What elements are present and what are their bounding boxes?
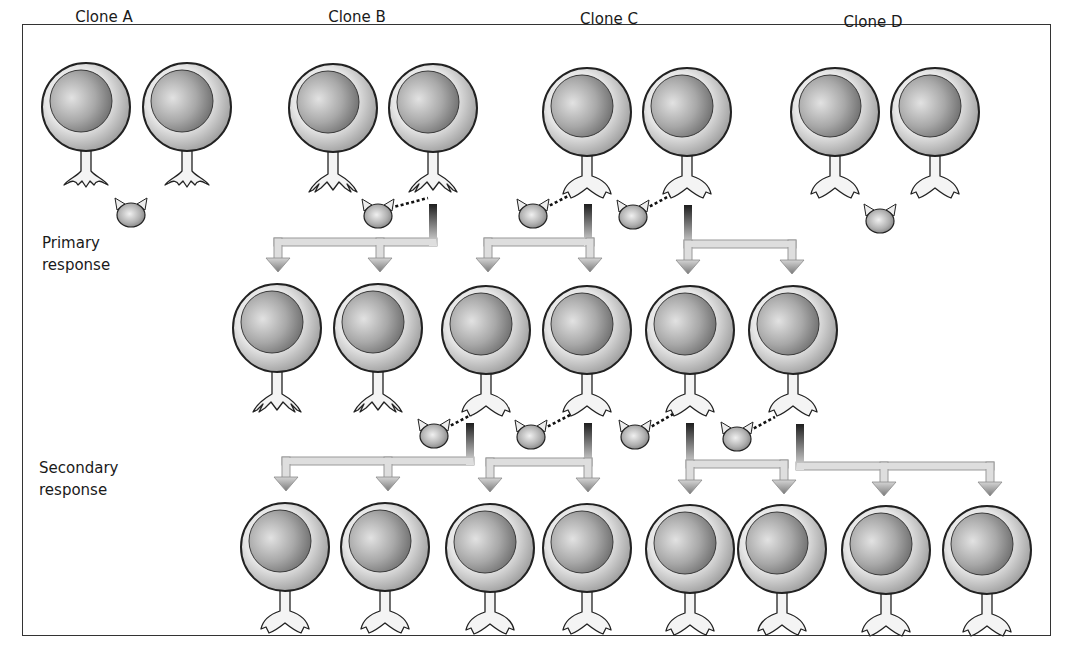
nucleus-icon: [651, 75, 713, 137]
lymphocyte-naive-clone-d: [791, 68, 879, 198]
receptor-icon: [253, 370, 301, 412]
nucleus-icon: [951, 513, 1013, 575]
antigen-icon: [617, 200, 649, 229]
lymphocyte-primary-clone-c: [442, 286, 530, 416]
lymphocyte-primary-clone-c: [543, 286, 631, 416]
antigen-icon: [517, 199, 549, 228]
diagram-artwork: [0, 0, 1068, 661]
receptor-icon: [963, 592, 1011, 636]
nucleus-icon: [654, 512, 716, 574]
receptor-icon: [911, 154, 959, 198]
lymphocyte-secondary-clone-c: [842, 506, 930, 636]
antigen-icon: [515, 420, 547, 449]
antigen-icon: [721, 422, 753, 451]
receptor-icon: [663, 154, 711, 198]
lymphocyte-secondary-clone-c: [341, 503, 429, 633]
lymphocyte-naive-clone-b: [389, 64, 477, 192]
receptor-icon: [563, 154, 611, 198]
lymphocyte-naive-clone-b: [289, 64, 377, 192]
receptor-icon: [361, 589, 409, 633]
nucleus-icon: [551, 511, 613, 573]
nucleus-icon: [241, 291, 303, 353]
receptor-icon: [462, 372, 510, 416]
binding-link-icon: [390, 198, 428, 208]
antigen-icon: [864, 204, 896, 233]
lymphocyte-secondary-clone-c: [543, 504, 631, 634]
lymphocyte-primary-clone-b: [233, 284, 321, 412]
receptor-icon: [666, 591, 714, 635]
receptor-icon: [466, 590, 514, 634]
lymphocyte-naive-clone-c: [643, 68, 731, 198]
nucleus-icon: [654, 293, 716, 355]
proliferation-arrow-icon: [266, 204, 437, 272]
receptor-icon: [666, 372, 714, 416]
lymphocyte-naive-clone-d: [891, 68, 979, 198]
lymphocyte-secondary-clone-c: [241, 503, 329, 633]
nucleus-icon: [349, 510, 411, 572]
lymphocyte-secondary-clone-c: [943, 506, 1031, 636]
receptor-icon: [811, 154, 859, 198]
receptor-icon: [354, 370, 402, 412]
lymphocyte-naive-clone-c: [543, 68, 631, 198]
nucleus-icon: [151, 70, 213, 132]
nucleus-icon: [249, 510, 311, 572]
nucleus-icon: [342, 291, 404, 353]
nucleus-icon: [899, 75, 961, 137]
lymphocyte-primary-clone-c: [749, 286, 837, 416]
receptor-icon: [309, 150, 357, 192]
nucleus-icon: [50, 70, 112, 132]
nucleus-icon: [450, 293, 512, 355]
nucleus-icon: [850, 513, 912, 575]
receptor-icon: [563, 590, 611, 634]
receptor-icon: [165, 149, 209, 187]
lymphocyte-secondary-clone-c: [738, 505, 826, 635]
receptor-icon: [64, 149, 108, 187]
nucleus-icon: [551, 75, 613, 137]
lymphocyte-naive-clone-a: [42, 63, 130, 187]
antigen-icon: [619, 420, 651, 449]
lymphocyte-primary-clone-c: [646, 286, 734, 416]
antigen-icon: [418, 419, 450, 448]
antigen-icon: [115, 198, 147, 227]
receptor-icon: [758, 591, 806, 635]
receptor-icon: [261, 589, 309, 633]
receptor-icon: [409, 150, 457, 192]
lymphocyte-secondary-clone-c: [446, 504, 534, 634]
nucleus-icon: [757, 293, 819, 355]
lymphocyte-cells: [42, 63, 1031, 636]
nucleus-icon: [746, 512, 808, 574]
nucleus-icon: [454, 511, 516, 573]
lymphocyte-secondary-clone-c: [646, 505, 734, 635]
nucleus-icon: [297, 71, 359, 133]
nucleus-icon: [799, 75, 861, 137]
lymphocyte-primary-clone-b: [334, 284, 422, 412]
nucleus-icon: [551, 293, 613, 355]
proliferation-arrow-icon: [796, 424, 1002, 496]
proliferation-arrow-icon: [676, 205, 804, 274]
receptor-icon: [563, 372, 611, 416]
lymphocyte-naive-clone-a: [143, 63, 231, 187]
antigen-icon: [362, 199, 394, 228]
nucleus-icon: [397, 71, 459, 133]
clonal-selection-diagram: Clone A Clone B Clone C Clone D Primary …: [0, 0, 1068, 661]
receptor-icon: [769, 372, 817, 416]
receptor-icon: [862, 592, 910, 636]
